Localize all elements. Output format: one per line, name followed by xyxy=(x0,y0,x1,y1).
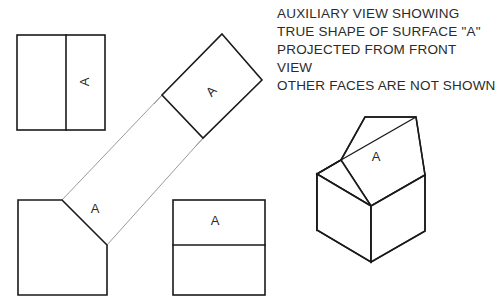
isometric-view: A xyxy=(317,117,425,262)
technical-drawing-page: A A A A xyxy=(0,0,498,303)
front-view-surface-label: A xyxy=(91,201,100,216)
note-line-5: OTHER FACES ARE NOT SHOWN xyxy=(277,78,496,93)
note-line-1: AUXILIARY VIEW SHOWING xyxy=(277,6,459,21)
auxiliary-view: A xyxy=(162,34,262,138)
isometric-surface-label: A xyxy=(372,149,381,164)
annotation-note-block: AUXILIARY VIEW SHOWING TRUE SHAPE OF SUR… xyxy=(277,6,496,93)
note-line-4: VIEW xyxy=(277,60,312,75)
top-view: A xyxy=(17,35,105,130)
drawing-canvas: A A A A xyxy=(0,0,498,303)
side-view-surface-label: A xyxy=(211,213,220,228)
front-view: A xyxy=(18,200,107,295)
note-line-3: PROJECTED FROM FRONT xyxy=(277,42,457,57)
note-line-2: TRUE SHAPE OF SURFACE "A" xyxy=(277,24,481,39)
side-view: A xyxy=(173,200,265,295)
auxiliary-view-outline xyxy=(162,34,262,138)
top-view-surface-label: A xyxy=(77,77,92,86)
